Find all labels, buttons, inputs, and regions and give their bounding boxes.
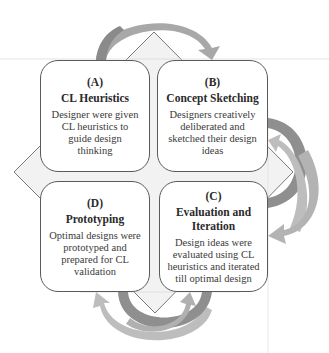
stage-description: Optimal designs were prototyped and prep… xyxy=(47,230,143,278)
stage-box-d: (D) Prototyping Optimal designs were pro… xyxy=(40,181,150,292)
stage-letter: (C) xyxy=(206,189,222,203)
stage-title: CL Heuristics xyxy=(61,91,129,105)
stage-box-a: (A) CL Heuristics Designer were given CL… xyxy=(40,60,150,172)
stage-description: Designers creatively deliberated and ske… xyxy=(164,109,261,157)
stage-title: Concept Sketching xyxy=(166,91,258,105)
stage-box-b: (B) Concept Sketching Designers creative… xyxy=(157,60,268,172)
diagram-background xyxy=(0,0,329,353)
stage-letter: (D) xyxy=(87,196,103,210)
stage-box-c: (C) Evaluation and Iteration Design idea… xyxy=(159,181,268,292)
stage-description: Designer were given CL heuristics to gui… xyxy=(47,109,143,157)
stage-title: Evaluation and Iteration xyxy=(166,205,261,233)
stage-title: Prototyping xyxy=(66,212,125,226)
stage-description: Design ideas were evaluated using CL heu… xyxy=(166,237,261,285)
stage-letter: (A) xyxy=(87,75,103,89)
stage-letter: (B) xyxy=(205,75,220,89)
